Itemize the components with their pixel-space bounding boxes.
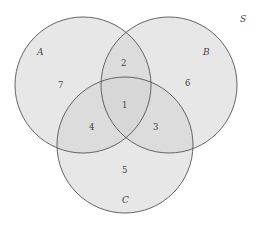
set-c-label: C <box>122 195 129 205</box>
set-b-label: B <box>202 47 210 57</box>
set-c-circle <box>57 77 193 213</box>
region-a-only: 7 <box>58 80 63 90</box>
region-b-only: 6 <box>185 78 190 88</box>
region-b-c-only: 3 <box>153 122 158 132</box>
region-a-c-only: 4 <box>89 122 94 132</box>
set-a-label: A <box>36 47 44 57</box>
region-a-b-c: 1 <box>122 100 127 110</box>
venn-diagram: S A B C 7 2 6 1 4 3 5 <box>0 0 256 226</box>
region-c-only: 5 <box>122 165 127 175</box>
region-a-b-only: 2 <box>121 58 126 68</box>
universe-label: S <box>240 14 246 24</box>
